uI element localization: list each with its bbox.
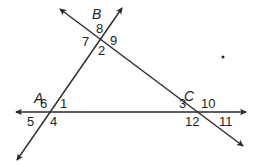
angle-label-2: 2: [98, 43, 105, 58]
line-AB: [17, 8, 122, 160]
angle-label-11: 11: [219, 114, 233, 129]
angle-label-8: 8: [96, 21, 103, 36]
stray-dot: [222, 56, 225, 59]
point-label-b: B: [92, 6, 101, 22]
lines-group: [16, 8, 246, 160]
angle-label-12: 12: [185, 114, 199, 129]
angle-label-3: 3: [179, 96, 186, 111]
angle-labels: 123456789101112: [27, 21, 233, 129]
angle-label-9: 9: [110, 33, 117, 48]
angle-label-5: 5: [27, 114, 34, 129]
angle-label-1: 1: [60, 96, 67, 111]
angle-label-4: 4: [50, 114, 57, 129]
geometry-diagram: ABC 123456789101112: [0, 0, 255, 167]
angle-label-7: 7: [82, 34, 89, 49]
line-BC: [60, 9, 243, 146]
angle-label-10: 10: [201, 96, 215, 111]
angle-label-6: 6: [40, 96, 47, 111]
